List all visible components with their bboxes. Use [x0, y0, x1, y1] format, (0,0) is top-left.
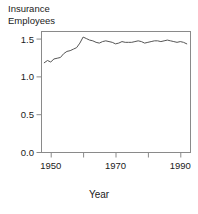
chart-title-line-2: Employees [8, 15, 55, 27]
x-tick-label: 1950 [40, 160, 61, 171]
chart-figure: Insurance Employees Year 0.00.51.01.5195… [0, 0, 198, 214]
y-tick-label: 0.5 [21, 109, 34, 120]
chart-title: Insurance Employees [8, 3, 55, 27]
y-tick-label: 1.5 [21, 33, 34, 44]
x-tick-label: 1970 [105, 160, 126, 171]
y-tick-label: 1.0 [21, 71, 34, 82]
y-tick-label: 0.0 [21, 147, 34, 158]
x-axis-title: Year [0, 189, 198, 200]
chart-title-line-1: Insurance [8, 3, 55, 15]
plot-frame [42, 32, 191, 153]
data-series-line [44, 37, 187, 63]
x-tick-label: 1990 [170, 160, 191, 171]
